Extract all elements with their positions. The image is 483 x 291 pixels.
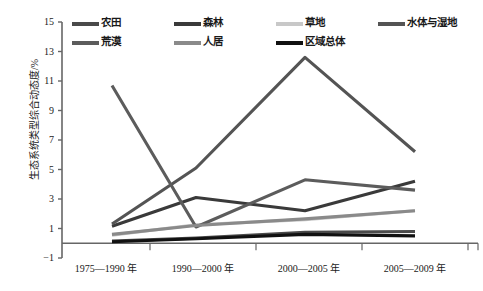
- series-line-1[interactable]: [112, 181, 415, 226]
- chart-figure: 农田 森林 草地 水体与湿地 荒漠 人居: [0, 0, 483, 291]
- plot-area: [0, 0, 483, 291]
